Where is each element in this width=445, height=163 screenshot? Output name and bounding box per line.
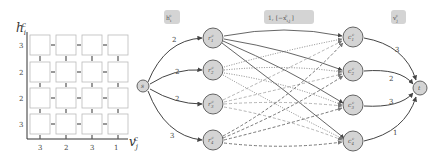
grid-panel: hic vjc 3 2 2 3 3 2 3 1 (16, 21, 139, 152)
tag-v: vjc (391, 10, 406, 24)
row-label: 2 (19, 95, 23, 103)
col-label: 2 (64, 144, 68, 152)
edge-weight: 3 (389, 98, 393, 106)
right-node-c3: c3c (343, 95, 363, 115)
col-label: 3 (38, 144, 42, 152)
right-node-c4: c4c (343, 131, 363, 151)
tag-cost: 1, [−xi,jc] (264, 10, 314, 24)
sink-edges (364, 38, 416, 141)
edge-weight: 1 (393, 129, 397, 137)
left-node-r3: r3c (203, 94, 223, 114)
x-axis-label: vjc (129, 135, 139, 151)
edge-weight: 3 (170, 132, 174, 140)
row-label: 3 (19, 121, 23, 129)
left-node-r4: r4c (203, 130, 223, 150)
col-label: 1 (114, 144, 118, 152)
left-node-r2: r2c (203, 60, 223, 80)
edge-weight: 2 (389, 75, 393, 83)
source-node: s (137, 80, 149, 92)
right-node-c2: c2c (343, 61, 363, 81)
tag-h: hic (164, 10, 180, 24)
col-label: 3 (90, 144, 94, 152)
row-label: 2 (19, 69, 23, 77)
y-axis-label: hic (16, 21, 26, 37)
flow-network: hic 1, [−xi,jc] vjc 2 2 2 3 (137, 10, 427, 151)
edge-weight: 3 (395, 46, 399, 54)
source-edges (148, 38, 202, 140)
sink-node: t (413, 81, 427, 95)
left-node-r1: r1c (203, 28, 223, 48)
svg-text:s: s (141, 82, 144, 89)
grid-cells (30, 35, 128, 134)
edge-weight: 2 (175, 95, 179, 103)
edge-weight: 2 (172, 36, 176, 44)
edges-r1 (222, 30, 344, 138)
grid-horizontal-links (51, 45, 107, 124)
edges-r4 (223, 43, 343, 146)
edge-weight: 2 (175, 68, 179, 76)
right-node-c1: c1c (343, 27, 363, 47)
figure-canvas: hic vjc 3 2 2 3 3 2 3 1 hic 1, [−xi,jc] … (0, 0, 445, 163)
row-label: 3 (19, 42, 23, 50)
